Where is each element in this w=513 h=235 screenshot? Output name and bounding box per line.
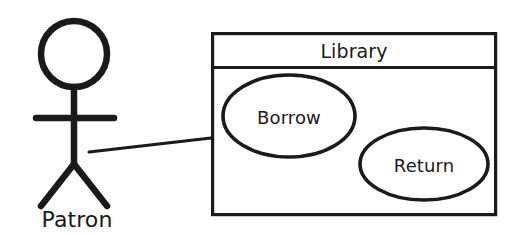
use-case-label-borrow: Borrow — [257, 107, 321, 128]
use-case-diagram-canvas: Patron Library Borrow Return — [0, 0, 513, 235]
actor-name-label: Patron — [42, 207, 113, 232]
system-boundary-title: Library — [320, 40, 387, 62]
association-line-patron-library[interactable] — [89, 138, 211, 152]
actor-right-leg-line — [74, 164, 107, 206]
use-case-label-return: Return — [394, 155, 454, 176]
actor-stick-figure-icon[interactable] — [36, 21, 114, 206]
actor-left-leg-line — [41, 164, 74, 206]
actor-head-circle — [41, 21, 107, 87]
